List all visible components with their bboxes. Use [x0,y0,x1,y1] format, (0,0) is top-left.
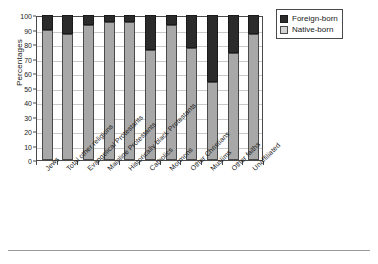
legend-item-foreign-born: Foreign-born [280,13,338,24]
legend-label: Native-born [292,25,333,34]
chart-figure: Percentages 0102030405060708090100 JewsT… [0,0,378,264]
dark-swatch-icon [280,15,288,23]
x-tick-label: Jews [44,155,61,172]
legend-item-native-born: Native-born [280,24,338,35]
footer-divider [8,250,370,251]
x-axis-labels: JewsTotal other religionsEvangelical Pro… [0,0,378,264]
light-swatch-icon [280,26,288,34]
chart-legend: Foreign-born Native-born [276,9,343,39]
legend-label: Foreign-born [292,14,338,23]
